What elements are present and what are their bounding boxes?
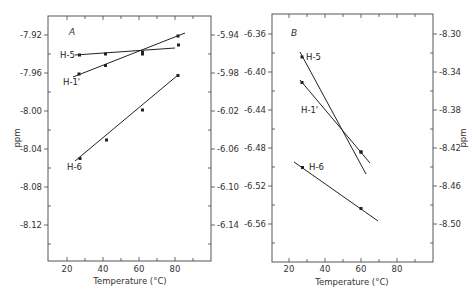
panel-a-right-tick: -5.94: [217, 30, 239, 40]
panel-b-y-axis-title: ppm: [458, 128, 468, 147]
panel-b-x-axis-title: Temperature (°C): [314, 277, 388, 287]
panel-a-x-ticks: [67, 16, 193, 261]
panel-b-label-h5: H-5: [306, 52, 321, 62]
panel-a-left-tick: -8.00: [20, 106, 42, 116]
panel-b-right-tick: -8.34: [439, 67, 461, 77]
panel-b-x-tick: 40: [320, 264, 331, 274]
panel-b: -6.36 -6.40 -6.44 -6.48 -6.52 -6.56 -8.3…: [244, 14, 468, 287]
panel-a-x-tick: 60: [134, 264, 145, 274]
panel-a-series-h6: [75, 74, 180, 161]
panel-a-label-h6: H-6: [67, 162, 82, 172]
figure: -7.92 -7.96 -8.00 -8.04 -8.08 -8.12 -5.9…: [0, 0, 475, 298]
panel-b-frame: [272, 14, 433, 262]
panel-a-right-tick: -5.98: [217, 68, 239, 78]
panel-b-right-tick: -8.30: [439, 29, 461, 39]
panel-a-left-tick: -8.12: [20, 220, 42, 230]
panel-b-left-tick: -6.40: [244, 67, 266, 77]
panel-a-left-tick: -7.92: [20, 30, 42, 40]
panel-a-y-axis-title: ppm: [12, 128, 22, 147]
panel-a: -7.92 -7.96 -8.00 -8.04 -8.08 -8.12 -5.9…: [12, 16, 239, 286]
panel-a-x-tick: 80: [170, 264, 181, 274]
panel-a-label-h1prime: H-1': [63, 77, 80, 87]
panel-a-letter: A: [68, 27, 75, 37]
panel-b-left-tick: -6.52: [244, 181, 266, 191]
panel-a-right-tick: -6.02: [217, 106, 239, 116]
panel-a-x-tick: 40: [98, 264, 109, 274]
panel-b-x-tick: 80: [392, 264, 403, 274]
panel-b-right-tick: -8.38: [439, 105, 461, 115]
panel-a-left-tick: -8.04: [20, 144, 42, 154]
panel-a-series-h1prime: [73, 33, 185, 77]
panel-b-letter: B: [291, 28, 297, 38]
panel-b-left-tick: -6.56: [244, 219, 266, 229]
panel-b-left-tick: -6.44: [244, 105, 266, 115]
panel-b-series-h1prime: [300, 80, 370, 163]
panel-b-right-tick: -8.46: [439, 181, 461, 191]
panel-b-left-tick: -6.36: [244, 29, 266, 39]
panel-b-series-h6: [294, 162, 378, 221]
panel-a-left-tick: -7.96: [20, 68, 42, 78]
panel-b-left-tick: -6.48: [244, 143, 266, 153]
panel-b-label-h1prime: H-1': [301, 105, 318, 115]
panel-b-y-ticks: [268, 34, 437, 243]
panel-a-right-tick: -6.14: [217, 220, 239, 230]
panel-a-x-axis-title: Temperature (°C): [92, 276, 166, 286]
panel-a-series-h5: [75, 44, 180, 57]
panel-a-left-tick: -8.08: [20, 182, 42, 192]
panel-b-x-tick: 60: [356, 264, 367, 274]
panel-a-right-tick: -6.06: [217, 144, 239, 154]
panel-b-label-h6: H-6: [309, 162, 324, 172]
panel-a-right-tick: -6.10: [217, 182, 239, 192]
panel-a-y-ticks: [44, 35, 215, 244]
panel-b-x-tick: 20: [284, 264, 295, 274]
panel-b-right-tick: -8.50: [439, 219, 461, 229]
panel-a-x-tick: 20: [62, 264, 73, 274]
panel-a-label-h5: H-5: [60, 50, 75, 60]
